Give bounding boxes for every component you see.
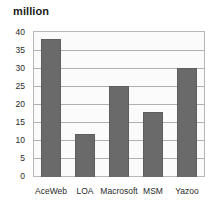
x-tick-label: MSM: [143, 186, 163, 197]
bar-msm: [143, 112, 163, 177]
y-tick-label: 5: [20, 154, 25, 163]
y-tick-label: 25: [16, 82, 25, 91]
y-tick-label: 20: [16, 100, 25, 109]
x-tick-label: AceWeb: [35, 186, 67, 197]
y-tick-label: 30: [16, 64, 25, 73]
x-tick-label: Macrosoft: [100, 186, 137, 197]
x-tick-label: LOA: [76, 186, 93, 197]
y-tick-label: 35: [16, 46, 25, 55]
bar-loa: [75, 134, 95, 178]
chart-title: million: [13, 5, 49, 18]
x-tick-label: Yazoo: [175, 186, 198, 197]
y-tick-label: 40: [16, 28, 25, 37]
bars-group: [34, 32, 204, 177]
y-tick-label: 15: [16, 118, 25, 127]
bar-chart: million 0510152025303540 AceWebLOAMacros…: [0, 0, 214, 208]
bar-aceweb: [41, 39, 61, 177]
bar-macrosoft: [109, 86, 129, 177]
x-axis: AceWebLOAMacrosoftMSMYazoo: [33, 186, 205, 200]
y-tick-label: 0: [20, 172, 25, 181]
y-axis: 0510152025303540: [0, 31, 30, 177]
y-tick-label: 10: [16, 136, 25, 145]
bar-yazoo: [177, 68, 197, 177]
